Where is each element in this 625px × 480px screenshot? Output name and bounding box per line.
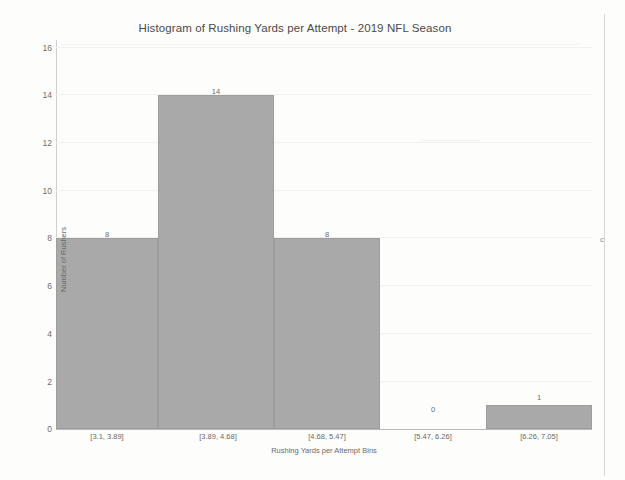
histogram-bar[interactable] <box>158 95 274 429</box>
y-tick-label: 8 <box>26 233 52 243</box>
gridline <box>56 47 592 48</box>
gridline <box>56 94 592 95</box>
y-tick-label: 6 <box>26 281 52 291</box>
y-axis-title: Number of Rushers <box>59 180 68 340</box>
gridline <box>56 142 592 143</box>
bar-value-label: 8 <box>77 230 137 239</box>
gridline <box>56 190 592 191</box>
x-tick-label: [4.68, 5.47] <box>274 432 380 441</box>
x-tick-label: [6.26, 7.05] <box>486 432 592 441</box>
x-axis-line <box>56 429 592 430</box>
x-tick-label: [3.89, 4.68] <box>160 432 276 441</box>
x-tick-label: [5.47, 6.26] <box>380 432 486 441</box>
y-tick-label: 0 <box>26 424 52 434</box>
scan-page-edge <box>604 14 605 476</box>
y-tick-label: 12 <box>26 138 52 148</box>
plot-area: 8 14 8 0 1 Number of Rushers <box>56 40 592 429</box>
histogram-bar[interactable] <box>274 238 380 429</box>
y-tick-label: 14 <box>26 90 52 100</box>
bar-value-label: 14 <box>186 87 246 96</box>
bar-value-label: 1 <box>509 393 569 402</box>
chart-title: Histogram of Rushing Yards per Attempt -… <box>0 22 590 34</box>
x-axis-title: Rushing Yards per Attempt Bins <box>56 446 592 455</box>
y-tick-label: 10 <box>26 186 52 196</box>
histogram-bar[interactable] <box>486 405 592 429</box>
histogram-bar[interactable] <box>56 238 158 429</box>
chart-page: c Histogram of Rushing Yards per Attempt… <box>0 0 625 480</box>
y-tick-label: 2 <box>26 377 52 387</box>
bar-value-label: 0 <box>403 405 463 414</box>
y-tick-label: 16 <box>26 43 52 53</box>
scan-artifact-mark: c <box>600 236 605 243</box>
bar-value-label: 8 <box>297 230 357 239</box>
x-tick-label: [3.1, 3.89] <box>57 432 157 441</box>
y-tick-label: 4 <box>26 329 52 339</box>
